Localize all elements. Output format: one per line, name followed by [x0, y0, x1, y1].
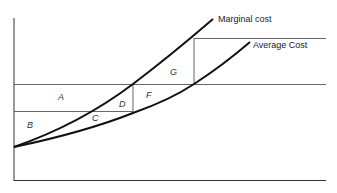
region-label-a: A — [57, 92, 64, 102]
region-label-f: F — [146, 90, 152, 100]
region-label-d: D — [119, 99, 126, 109]
region-label-g: G — [170, 67, 177, 77]
region-label-c: C — [92, 113, 99, 123]
average-cost-label: Average Cost — [253, 40, 308, 50]
marginal-cost-curve — [14, 19, 213, 147]
region-label-b: B — [27, 120, 33, 130]
marginal-cost-label: Marginal cost — [218, 14, 272, 24]
average-cost-curve — [14, 42, 250, 147]
cost-curves-diagram: Marginal cost Average Cost A B C D F G — [0, 0, 337, 193]
